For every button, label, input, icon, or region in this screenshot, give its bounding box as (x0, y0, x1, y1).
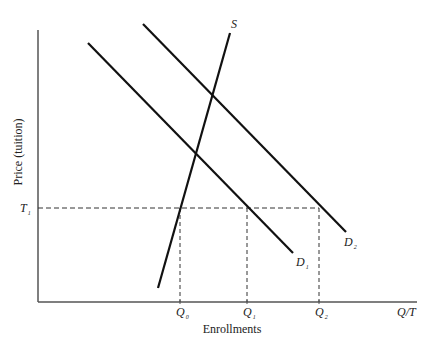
quantity-q0-label: Q0 (176, 305, 189, 320)
x-axis-label: Enrollments (203, 322, 262, 336)
axes (38, 30, 417, 302)
s-curve (158, 33, 230, 288)
quantity-q1-label: Q1 (243, 305, 256, 320)
x-axis-end-label: Q/T (397, 305, 417, 319)
curves (88, 24, 346, 288)
supply-demand-chart: Price (tuition) Enrollments Q/T T1Q0Q1Q2… (0, 0, 432, 345)
d1-label: D1 (295, 255, 309, 270)
price-t1-label: T1 (20, 201, 31, 216)
d2-curve (143, 24, 346, 232)
reference-lines (38, 208, 319, 304)
labels: Price (tuition) Enrollments Q/T T1Q0Q1Q2… (11, 17, 417, 336)
d1-curve (88, 43, 293, 253)
y-axis-label: Price (tuition) (11, 119, 25, 186)
d2-label: D2 (343, 235, 357, 250)
quantity-q2-label: Q2 (315, 305, 328, 320)
s-label: S (231, 17, 237, 31)
